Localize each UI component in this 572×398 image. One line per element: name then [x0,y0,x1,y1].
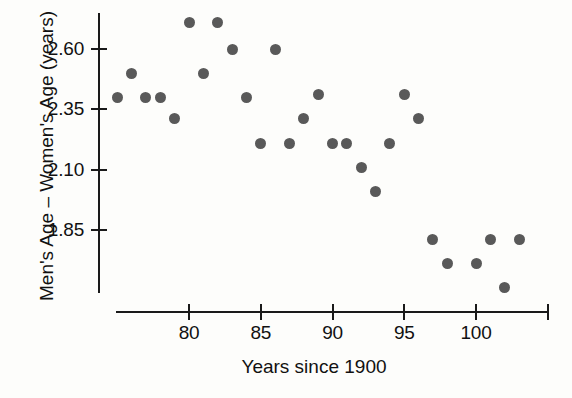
data-point [341,138,352,149]
x-axis-end-tick [547,304,549,320]
data-point [399,89,410,100]
data-point [327,138,338,149]
data-point [227,44,238,55]
data-point [298,113,309,124]
x-tick-mark [403,304,405,320]
y-tick-mark [91,48,107,50]
x-tick-label: 100 [446,322,506,344]
y-tick-mark [91,229,107,231]
x-tick-label: 85 [231,322,291,344]
data-point [140,92,151,103]
data-point [255,138,266,149]
data-point [499,282,510,293]
data-point [284,138,295,149]
y-axis-label: Men's Age – Women's Age (years) [36,0,58,321]
x-tick-mark [260,304,262,320]
data-point [485,234,496,245]
data-point [126,68,137,79]
data-point [514,234,525,245]
data-point [155,92,166,103]
data-point [112,92,123,103]
data-point [313,89,324,100]
x-tick-label: 80 [159,322,219,344]
y-tick-mark [91,169,107,171]
x-tick-mark [188,304,190,320]
y-axis-line [98,13,100,293]
data-point [471,258,482,269]
x-axis-label: Years since 1900 [0,356,572,378]
data-point [384,138,395,149]
data-point [356,162,367,173]
data-point [413,113,424,124]
data-point [427,234,438,245]
x-tick-label: 90 [303,322,363,344]
x-tick-mark [475,304,477,320]
data-point [198,68,209,79]
data-point [212,17,223,28]
x-tick-mark [332,304,334,320]
y-tick-mark [91,108,107,110]
scatter-plot-figure: 2.602.352.101.85 80859095100 Years since… [0,0,572,398]
data-point [370,186,381,197]
x-tick-label: 95 [374,322,434,344]
data-point [270,44,281,55]
data-point [169,113,180,124]
data-point [241,92,252,103]
data-point [442,258,453,269]
data-point [184,17,195,28]
